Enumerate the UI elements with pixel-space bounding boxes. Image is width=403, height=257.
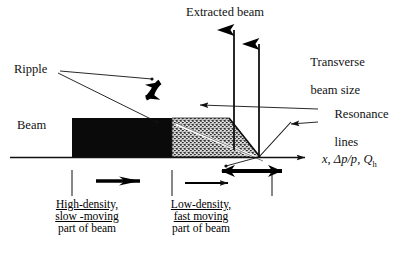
ripple-label: Ripple	[14, 62, 47, 76]
resonance-leader-short	[291, 122, 318, 124]
axis-var-dp: Δp/p	[334, 152, 357, 166]
ripple-leader-lower	[58, 73, 157, 122]
resonance-line-segment	[259, 122, 291, 157]
resonance-lines-label-line1: Resonance	[335, 107, 389, 121]
ripple-double-arrow	[146, 82, 160, 98]
resonance-lines-label-line2: lines	[335, 135, 359, 149]
diagram-canvas: Extracted beam Transverse beam size Reso…	[0, 0, 403, 257]
low-density-label-line1: Low-density,	[146, 198, 256, 210]
high-density-label-line2: slow -moving	[32, 210, 142, 222]
high-density-group-label: High-density, slow -moving part of beam	[32, 198, 142, 234]
axis-label: x, Δp/p, Qh	[322, 152, 377, 169]
ripple-leader-upper	[60, 71, 152, 79]
high-density-label-line3: part of beam	[32, 222, 142, 234]
separatrix-pointer	[226, 157, 259, 166]
extracted-beam-label: Extracted beam	[186, 5, 264, 19]
beam-label: Beam	[17, 118, 46, 132]
high-density-beam-block	[72, 118, 172, 157]
low-density-label-line3: part of beam	[146, 222, 256, 234]
low-density-beam-triangle	[172, 118, 260, 157]
high-density-label-line1: High-density,	[32, 198, 142, 210]
axis-var-q-subscript: h	[372, 159, 376, 169]
low-density-label-line2: fast moving	[146, 210, 256, 222]
low-density-group-label: Low-density, fast moving part of beam	[146, 198, 256, 234]
transverse-beam-size-label-line1: Transverse	[310, 55, 364, 69]
